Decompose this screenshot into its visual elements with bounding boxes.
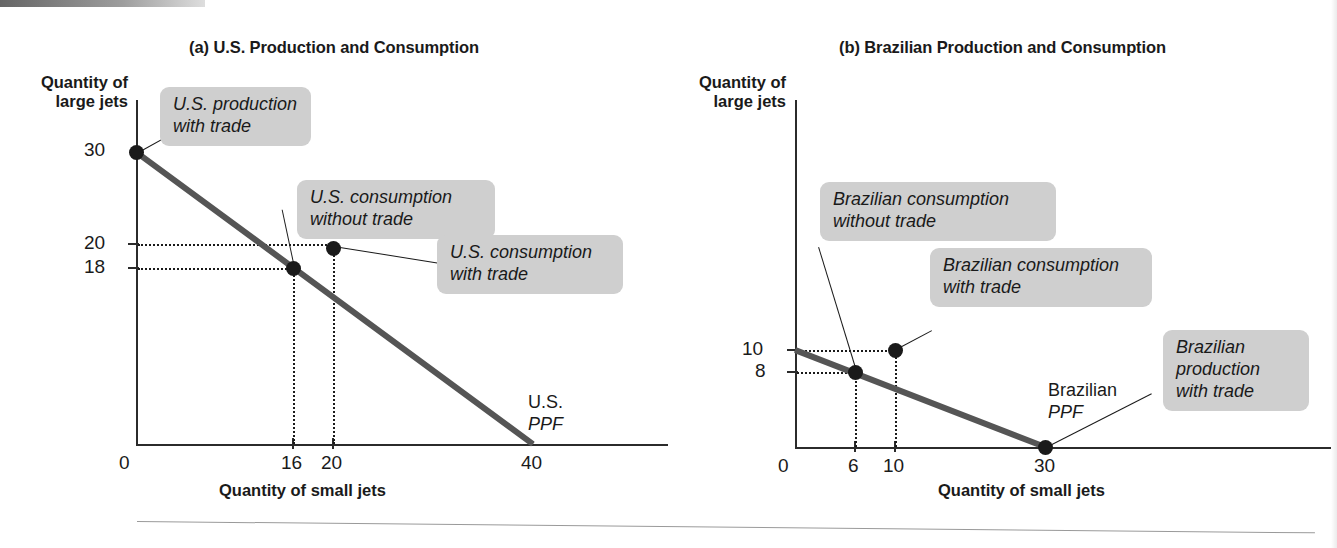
y-tick-label-30-us: 30 (84, 139, 105, 161)
y-axis-label-brazil: Quantity of large jets (668, 73, 786, 112)
x-tick-label-6-brazil: 6 (848, 455, 859, 477)
callout-brazilian-consumption-without-trade: Brazilian consumption without trade (820, 182, 1056, 241)
page-right-edge (1331, 0, 1337, 548)
callout-brazilian-production-with-trade: Brazilian production with trade (1163, 330, 1309, 411)
callout-brazilian-consumption-with-trade: Brazilian consumption with trade (930, 248, 1152, 307)
us-ppf-label-line2: PPF (528, 414, 563, 436)
brazilian-ppf-label-line2: PPF (1048, 402, 1117, 424)
y-axis-label-line1: Quantity of (668, 73, 786, 92)
x-tick-label-0-brazil: 0 (778, 455, 789, 477)
y-tick-label-8-brazil: 8 (755, 360, 766, 382)
x-tick-label-40-us: 40 (521, 452, 542, 474)
y-tick-label-18-us: 18 (84, 256, 105, 278)
point-brazilian-production-with-trade (1038, 440, 1053, 455)
callout-us-consumption-without-trade: U.S. consumption without trade (297, 180, 495, 239)
leader-us-consumption-with (340, 247, 439, 264)
leader-brazilian-consumption-with (900, 330, 932, 348)
y-axis-label-line2: large jets (0, 92, 128, 111)
y-axis-label-us: Quantity of large jets (0, 73, 128, 112)
guide-h-18-us (138, 268, 294, 270)
point-us-production-with-trade (129, 145, 144, 160)
brazilian-ppf-line (794, 347, 1046, 450)
x-tick-label-30-brazil: 30 (1034, 455, 1055, 477)
us-ppf-label: U.S. PPF (528, 392, 563, 435)
x-tick-label-10-brazil: 10 (883, 455, 904, 477)
point-us-consumption-with-trade (326, 241, 341, 256)
y-tick-label-10-brazil: 10 (742, 338, 763, 360)
brazilian-ppf-label-line1: Brazilian (1048, 380, 1117, 400)
guide-v-10-brazil (895, 350, 897, 447)
x-tick-label-20-us: 20 (321, 452, 342, 474)
panel-title-us: (a) U.S. Production and Consumption (0, 38, 668, 57)
x-axis-label-us: Quantity of small jets (219, 481, 386, 500)
x-tick-label-16-us: 16 (281, 452, 302, 474)
y-axis-line-brazil (795, 100, 797, 448)
guide-h-10-brazil (797, 350, 895, 352)
y-axis-label-line1: Quantity of (0, 73, 128, 92)
guide-h-20-us (138, 244, 334, 246)
y-axis-label-line2: large jets (668, 92, 786, 111)
guide-v-16-us (293, 268, 295, 444)
brazilian-ppf-label: Brazilian PPF (1048, 380, 1117, 423)
callout-us-consumption-with-trade: U.S. consumption with trade (437, 235, 623, 294)
x-axis-label-brazil: Quantity of small jets (938, 481, 1105, 500)
us-ppf-label-line1: U.S. (528, 392, 563, 412)
callout-us-production-with-trade: U.S. production with trade (160, 87, 311, 146)
y-tick-label-20-us: 20 (84, 232, 105, 254)
x-axis-line-brazil (795, 447, 1337, 449)
guide-v-20-us (333, 244, 335, 444)
x-axis-line-us (136, 444, 668, 446)
chart-panel-brazil: (b) Brazilian Production and Consumption… (668, 0, 1337, 548)
chart-panel-us: (a) U.S. Production and Consumption Quan… (0, 0, 668, 548)
guide-v-6-brazil (855, 372, 857, 447)
panel-title-brazil: (b) Brazilian Production and Consumption (668, 38, 1337, 57)
x-tick-label-0-us: 0 (119, 452, 130, 474)
